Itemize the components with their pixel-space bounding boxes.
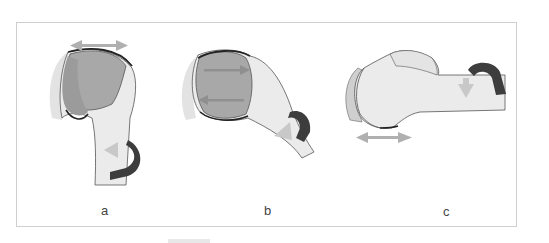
humerus-illustration bbox=[0, 0, 549, 243]
panel-c-drawing bbox=[346, 51, 506, 143]
panel-label-c: c bbox=[443, 204, 450, 219]
panel-label-b: b bbox=[264, 203, 271, 218]
decorative-strip bbox=[168, 239, 210, 243]
panel-a-drawing bbox=[50, 40, 141, 185]
panel-b-drawing bbox=[182, 50, 314, 158]
panel-label-a: a bbox=[101, 203, 108, 218]
